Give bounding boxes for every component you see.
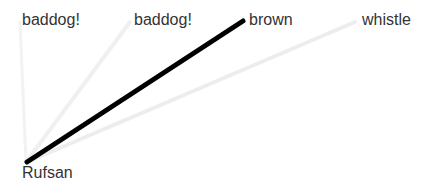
target-word-baddog-2: baddog! (134, 11, 192, 29)
source-word-rufsan: Rufsan (22, 164, 73, 182)
edge-rufsan-brown (27, 21, 243, 162)
target-word-brown: brown (249, 11, 293, 29)
edge-rufsan-baddog-1 (20, 22, 26, 162)
target-word-baddog-1: baddog! (22, 11, 80, 29)
target-word-whistle: whistle (362, 11, 411, 29)
